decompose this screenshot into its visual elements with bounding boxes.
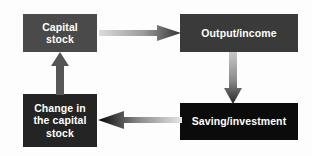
node-output-income[interactable]: Output/income bbox=[180, 14, 298, 52]
arrow-right-icon bbox=[99, 24, 181, 42]
arrow-left-icon bbox=[98, 110, 182, 130]
node-saving-investment-label: Saving/investment bbox=[192, 115, 286, 128]
node-saving-investment[interactable]: Saving/investment bbox=[180, 103, 298, 140]
flow-diagram: Capital stock Output/income Saving/inves… bbox=[0, 0, 312, 156]
node-output-income-label: Output/income bbox=[201, 27, 276, 40]
node-change-in-the-capital-stock[interactable]: Change in the capital stock bbox=[23, 94, 97, 147]
node-capital-stock-label: Capital stock bbox=[42, 21, 78, 46]
node-change-in-the-capital-stock-label: Change in the capital stock bbox=[33, 102, 86, 140]
arrow-down-icon bbox=[223, 52, 243, 104]
arrow-up-icon bbox=[50, 52, 70, 95]
node-capital-stock[interactable]: Capital stock bbox=[23, 14, 97, 52]
